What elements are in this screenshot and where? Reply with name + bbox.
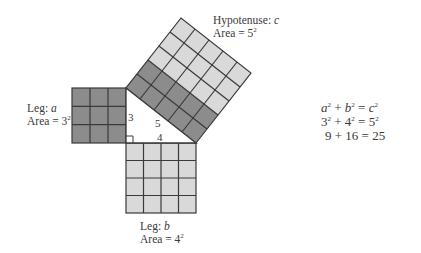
leg-b-label: Leg: b Area = 42: [140, 220, 184, 248]
hypotenuse-label: Hypotenuse: c Area = 52: [213, 14, 279, 42]
side-a-label: 3: [128, 111, 134, 123]
leg-b-square: [126, 143, 196, 213]
equation-numeric-result: 9 + 16 = 25: [325, 129, 385, 143]
side-b-label: 4: [157, 131, 163, 143]
side-c-label: 5: [155, 117, 161, 129]
leg-a-square: [72, 88, 126, 143]
leg-a-label: Leg: a Area = 32: [27, 102, 71, 130]
